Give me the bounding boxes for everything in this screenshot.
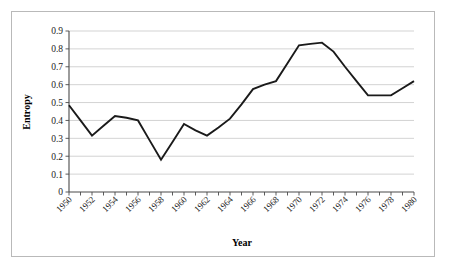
y-tick-label: 0.6 [51,80,63,90]
y-tick-label: 0.3 [51,134,63,144]
x-tick-label: 1974 [330,194,350,214]
x-tick-label: 1972 [307,194,327,214]
x-tick-label: 1962 [192,194,212,214]
x-tick-label: 1980 [399,194,419,214]
chart-figure: 0.90.80.70.60.50.40.30.20.10 19501952195… [11,11,435,257]
x-tick-label: 1950 [54,194,74,214]
x-tick-labels: 1950195219541956195819601962196419661968… [54,194,419,214]
y-tick-labels: 0.90.80.70.60.50.40.30.20.10 [51,26,63,197]
x-tick-label: 1960 [169,194,189,214]
y-axis-title: Entropy [21,94,32,129]
y-tick-label: 0.8 [51,44,63,54]
y-tick-label: 0.9 [51,26,63,36]
x-tick-label: 1976 [353,194,373,214]
y-tick-label: 0.7 [51,62,63,72]
x-tick-label: 1956 [123,194,143,214]
x-tick-label: 1968 [261,194,281,214]
x-tick-label: 1978 [376,194,396,214]
x-tick-label: 1970 [284,194,304,214]
x-tick-label: 1952 [77,194,97,214]
x-tick-label: 1954 [100,194,120,214]
x-tick-label: 1964 [215,194,235,214]
y-tick-label: 0.2 [51,152,63,162]
x-tick-label: 1966 [238,194,258,214]
entropy-series-line [69,43,414,160]
y-tick-label: 0 [58,187,63,197]
gridlines [69,31,414,174]
x-tick-label: 1958 [146,194,166,214]
y-tick-label: 0.1 [51,170,63,180]
y-tick-label: 0.4 [51,116,63,126]
line-chart: 0.90.80.70.60.50.40.30.20.10 19501952195… [12,12,434,256]
y-tick-label: 0.5 [51,98,63,108]
x-axis-title: Year [232,237,253,248]
